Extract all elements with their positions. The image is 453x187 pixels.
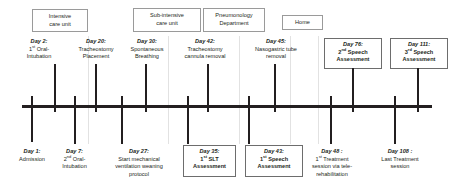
- care-setting-line1: Sub-intensive: [150, 12, 184, 20]
- event-day-76-second-speech-assessment: Day 76: 2nd Speech Assessment: [324, 38, 382, 69]
- timeline-axis: [22, 105, 432, 108]
- event-desc-line2: Assessment: [186, 163, 233, 171]
- event-day-label: Day 48 :: [321, 148, 342, 154]
- scan-separator: [239, 36, 240, 144]
- event-desc-line1: 1st Treatment: [299, 156, 365, 164]
- event-desc-line1: Tracheostomy: [70, 46, 122, 54]
- event-desc-line1: Nasogastric tube: [243, 46, 309, 54]
- tick-day-48: [330, 96, 332, 144]
- tick-day-20: [95, 64, 97, 112]
- event-desc-line2: Assessment: [248, 163, 300, 171]
- event-day-30-spontaneous-breathing: Day 30: Spontaneous Breathing: [123, 38, 171, 61]
- event-day-27-start-mechanical-ventilation-weaning: Day 27: Start mechanical ventilation wea…: [101, 148, 177, 178]
- event-desc-line1: Start mechanical: [101, 156, 177, 164]
- event-desc-line1: 1st Speech: [248, 156, 300, 164]
- tick-day-111: [417, 68, 419, 112]
- event-desc-line2: session: [367, 163, 433, 171]
- event-desc-line3: protocol: [101, 171, 177, 179]
- care-setting-pneumonology-department: Pneumonology Department: [203, 8, 265, 32]
- event-day-20-tracheostomy-placement: Day 20: Tracheostomy Placement: [70, 38, 122, 61]
- care-setting-line2: Department: [219, 20, 248, 28]
- event-day-2-oral-intubation: Day 2: 1st Oral- Intubation: [14, 38, 64, 61]
- event-day-label: Day 1:: [24, 148, 41, 154]
- timeline-diagram: Intensive care unit Sub-intensive care u…: [0, 0, 453, 187]
- event-desc-line2: cannula removal: [173, 53, 237, 61]
- event-desc-line2: Intubation: [51, 163, 98, 171]
- event-day-1-admission: Day 1: Admission: [8, 148, 56, 163]
- event-day-label: Day 27:: [129, 148, 149, 154]
- care-setting-line2: care unit: [156, 20, 177, 28]
- event-desc-line2: Assessment: [393, 56, 445, 64]
- event-day-label: Day 45:: [266, 38, 286, 44]
- event-day-label: Day 108 :: [388, 148, 413, 154]
- event-desc-line1: Spontaneous: [123, 46, 171, 54]
- event-desc-line2: Assessment: [327, 56, 379, 64]
- event-desc-line1: 2nd Speech: [327, 49, 379, 57]
- event-desc-line1: 1st Oral-: [14, 46, 64, 54]
- event-day-label: Day 43:: [264, 148, 284, 154]
- event-day-48-first-treatment-session-telerehabilitation: Day 48 : 1st Treatment session via tele-…: [299, 148, 365, 178]
- event-day-label: Day 20:: [86, 38, 106, 44]
- event-desc-line2: ventilation weaning: [101, 163, 177, 171]
- care-setting-sub-intensive-care-unit: Sub-intensive care unit: [133, 8, 201, 32]
- care-setting-intensive-care-unit: Intensive care unit: [32, 9, 88, 32]
- tick-day-7: [74, 96, 76, 144]
- event-desc-line1: Tracheostomy: [173, 46, 237, 54]
- tick-day-42: [207, 64, 209, 112]
- tick-day-2: [54, 64, 56, 112]
- tick-day-45: [274, 64, 276, 112]
- event-day-111-third-speech-assessment: Day 111: 3rd Speech Assessment: [390, 38, 448, 69]
- event-desc-line1: Admission: [8, 156, 56, 164]
- event-day-42-tracheostomy-cannula-removal: Day 42: Tracheostomy cannula removal: [173, 38, 237, 61]
- event-desc-line2: session via tele-: [299, 163, 365, 171]
- event-desc-line2: Placement: [70, 53, 122, 61]
- event-day-35-first-slt-assessment: Day 35: 1st SLT Assessment: [183, 145, 236, 177]
- tick-day-1: [31, 96, 33, 142]
- event-day-43-first-speech-assessment: Day 43: 1st Speech Assessment: [245, 145, 303, 177]
- care-setting-line1: Pneumonology: [215, 12, 252, 20]
- scan-separator: [318, 36, 319, 144]
- tick-day-76: [352, 68, 354, 112]
- event-desc-line1: 1st SLT: [186, 156, 233, 164]
- care-setting-home: Home: [282, 15, 323, 30]
- event-desc-line2: Intubation: [14, 53, 64, 61]
- event-desc-line1: 3rd Speech: [393, 49, 445, 57]
- event-day-108-last-treatment-session: Day 108 : Last Treatment session: [367, 148, 433, 171]
- event-desc-line2: removal: [243, 53, 309, 61]
- tick-day-35: [187, 96, 189, 144]
- event-day-label: Day 30:: [137, 38, 157, 44]
- care-setting-line1: Home: [295, 19, 310, 27]
- event-day-7-second-oral-intubation: Day 7: 2nd Oral- Intubation: [51, 148, 98, 171]
- event-desc-line1: Last Treatment: [367, 156, 433, 164]
- tick-day-30: [145, 64, 147, 112]
- event-day-label: Day 42:: [195, 38, 215, 44]
- care-setting-line2: care unit: [49, 21, 70, 29]
- event-desc-line1: 2nd Oral-: [51, 156, 98, 164]
- event-desc-line2: Breathing: [123, 53, 171, 61]
- tick-day-27: [121, 96, 123, 144]
- event-desc-line3: rehabilitation: [299, 171, 365, 179]
- event-day-45-nasogastric-tube-removal: Day 45: Nasogastric tube removal: [243, 38, 309, 61]
- tick-day-108: [394, 96, 396, 144]
- care-setting-line1: Intensive: [49, 13, 71, 21]
- tick-day-43: [248, 96, 250, 144]
